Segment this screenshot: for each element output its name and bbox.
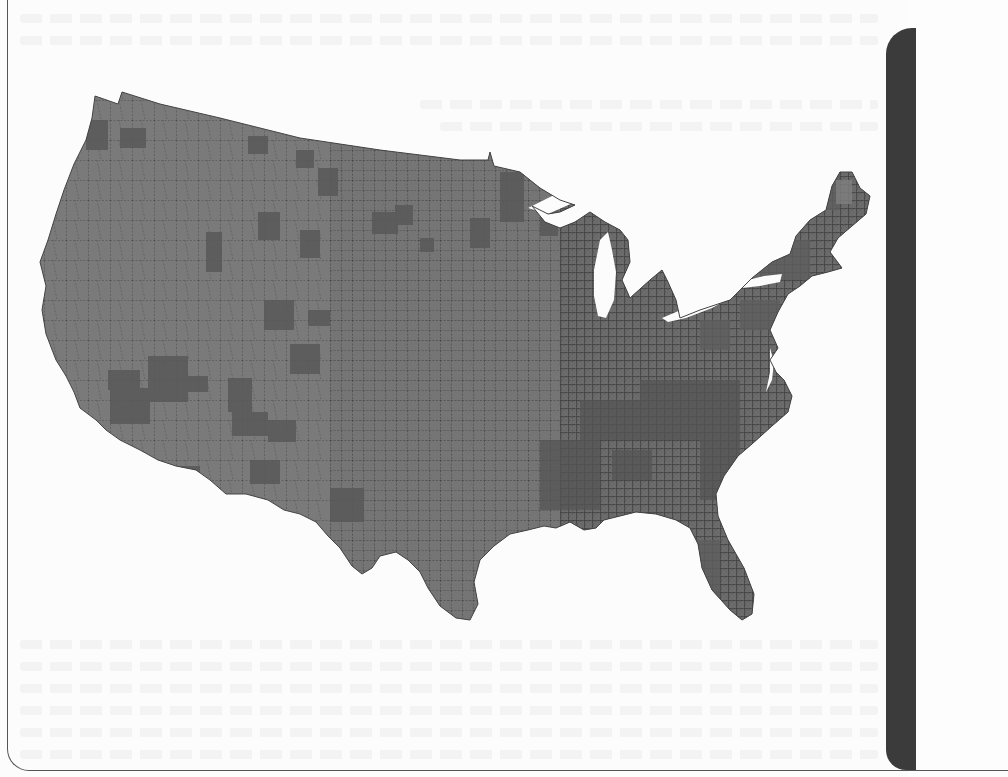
right-dark-side-bar [886, 28, 916, 770]
